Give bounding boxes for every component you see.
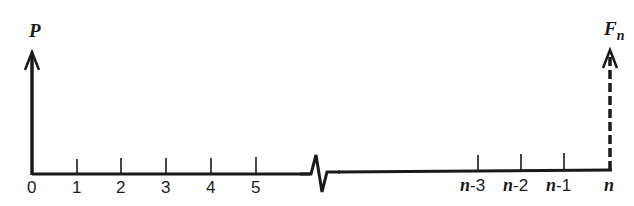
- tick-label-n-3-n: n: [460, 175, 470, 195]
- future-value-label-subscript: n: [617, 28, 625, 43]
- tick-label-2: 2: [116, 178, 125, 197]
- tick-label-n: n: [604, 175, 614, 195]
- axis-break-icon: [300, 155, 340, 192]
- tick-label-n-1-suffix: -1: [556, 176, 571, 195]
- tick-label-4: 4: [206, 178, 215, 197]
- future-value-label-main: F: [603, 18, 617, 39]
- present-value-label: P: [28, 20, 41, 41]
- tick-label-n-1-n: n: [546, 175, 556, 195]
- future-value-label: Fn: [603, 18, 625, 43]
- tick-label-n-2-suffix: -2: [513, 176, 528, 195]
- tick-label-1: 1: [72, 178, 81, 197]
- tick-label-n-1: n-1: [546, 175, 571, 195]
- tick-label-n-n: n: [604, 175, 614, 195]
- tick-label-n-3: n-3: [460, 175, 485, 195]
- diagram-canvas: P Fn 0 1 2 3 4 5 n-3 n-2 n-1 n: [0, 0, 634, 206]
- tick-label-0: 0: [27, 178, 36, 197]
- cash-flow-diagram: P Fn 0 1 2 3 4 5 n-3 n-2 n-1 n: [0, 0, 634, 206]
- tick-label-n-2-n: n: [503, 175, 513, 195]
- tick-label-n-3-suffix: -3: [470, 176, 485, 195]
- tick-label-3: 3: [161, 178, 170, 197]
- tick-label-n-2: n-2: [503, 175, 528, 195]
- time-axis-right: [338, 170, 612, 172]
- tick-label-5: 5: [251, 178, 260, 197]
